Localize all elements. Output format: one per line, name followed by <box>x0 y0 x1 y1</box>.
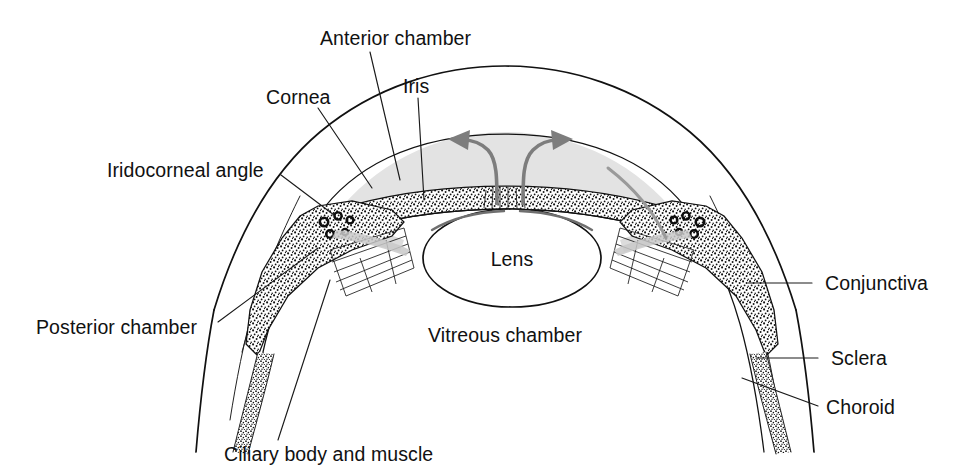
label-sclera: Sclera <box>831 347 887 369</box>
label-anterior-chamber: Anterior chamber <box>320 27 472 49</box>
label-cornea: Cornea <box>266 86 331 108</box>
lens-structure: Lens <box>423 209 601 307</box>
label-choroid: Choroid <box>826 396 895 418</box>
label-ciliary-body-and-muscle: Ciliary body and muscle <box>224 443 433 465</box>
label-conjunctiva: Conjunctiva <box>825 272 928 294</box>
label-iridocorneal-angle: Iridocorneal angle <box>107 159 264 181</box>
eye-anatomy-diagram: Lens Anterior chamber Cornea Iris Iridoc… <box>0 0 957 474</box>
eye-cross-section-illustration: Lens Anterior chamber Cornea Iris Iridoc… <box>0 0 957 474</box>
label-posterior-chamber: Posterior chamber <box>36 316 197 338</box>
label-iris: Iris <box>403 75 430 97</box>
lens-label: Lens <box>491 248 534 270</box>
label-vitreous-chamber: Vitreous chamber <box>428 324 582 346</box>
